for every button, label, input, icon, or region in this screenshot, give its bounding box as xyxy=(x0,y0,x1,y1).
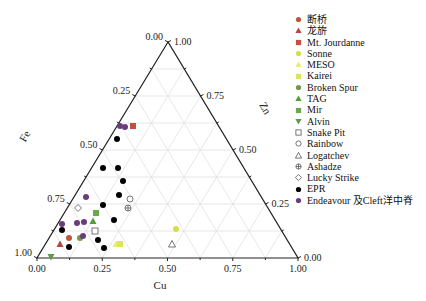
data-point xyxy=(114,136,120,142)
circle-marker-icon xyxy=(294,15,303,24)
legend-item: TAG xyxy=(294,93,413,104)
legend-item: Lucky Strike xyxy=(294,172,413,183)
legend-item: Mir xyxy=(294,104,413,115)
svg-text:0.25: 0.25 xyxy=(272,198,290,209)
data-point xyxy=(125,205,131,211)
data-point xyxy=(169,241,176,248)
data-point xyxy=(66,235,72,241)
triangle-down-marker-icon xyxy=(294,117,303,126)
data-point xyxy=(75,205,82,212)
square-marker-icon xyxy=(294,72,303,81)
data-point xyxy=(115,165,121,171)
data-point xyxy=(122,124,128,130)
data-point xyxy=(57,241,64,248)
circle-marker-icon xyxy=(294,185,303,194)
legend-label: Mt. Jourdanne xyxy=(307,37,365,48)
svg-text:0.50: 0.50 xyxy=(159,263,177,274)
data-point xyxy=(83,194,89,200)
open-triangle-marker-icon xyxy=(294,151,303,160)
svg-text:0.75: 0.75 xyxy=(224,263,242,274)
data-point xyxy=(92,228,98,234)
legend-label: Kairei xyxy=(307,70,332,81)
svg-text:0.75: 0.75 xyxy=(47,193,65,204)
data-point xyxy=(93,210,99,216)
caption-strip xyxy=(0,292,426,301)
data-point xyxy=(116,192,122,198)
data-point xyxy=(59,227,65,233)
legend-label: Ashadze xyxy=(307,161,341,172)
legend-item: Sonne xyxy=(294,48,413,59)
data-point xyxy=(95,237,101,243)
legend-item: 断桥 xyxy=(294,14,413,25)
legend-label: 断桥 xyxy=(307,14,327,25)
circle-marker-icon xyxy=(294,196,303,205)
svg-text:0.00: 0.00 xyxy=(146,31,164,42)
triangle-marker-icon xyxy=(294,26,303,35)
legend-label: Alvin xyxy=(307,116,330,127)
legend-label: 龙旂 xyxy=(307,25,327,36)
chart-grid xyxy=(53,69,281,258)
zn-axis-label: Zn xyxy=(257,100,274,117)
triangle-marker-icon xyxy=(294,94,303,103)
data-point xyxy=(117,123,123,129)
data-point xyxy=(100,202,106,208)
legend-item: MESO xyxy=(294,59,413,70)
open-square-marker-icon xyxy=(294,128,303,137)
legend-label: Endeavour 及Cleft洋中脊 xyxy=(307,195,413,206)
data-point xyxy=(100,165,106,171)
triangle-marker-icon xyxy=(294,60,303,69)
fe-axis-label: Fe xyxy=(17,128,33,144)
data-point xyxy=(111,217,117,223)
data-point xyxy=(81,219,87,225)
svg-text:0.50: 0.50 xyxy=(239,144,257,155)
data-point xyxy=(74,220,80,226)
data-point xyxy=(66,244,72,250)
legend-label: Sonne xyxy=(307,48,332,59)
crossed-circle-marker-icon xyxy=(294,162,303,171)
legend-label: TAG xyxy=(307,93,327,104)
legend-label: MESO xyxy=(307,59,335,70)
open-circle-marker-icon xyxy=(294,139,303,148)
legend-label: Broken Spur xyxy=(307,82,358,93)
legend-item: Snake Pit xyxy=(294,127,413,138)
legend-item: Ashadze xyxy=(294,161,413,172)
svg-text:0.25: 0.25 xyxy=(113,85,131,96)
data-point xyxy=(90,218,97,225)
svg-text:0.00: 0.00 xyxy=(304,252,322,263)
data-point xyxy=(59,221,65,227)
legend-item: Logatchev xyxy=(294,150,413,161)
legend-item: Rainbow xyxy=(294,138,413,149)
data-point xyxy=(173,226,179,232)
axis-ticks: 0.000.001.000.250.250.750.500.500.500.75… xyxy=(15,31,322,274)
svg-text:0.75: 0.75 xyxy=(207,90,225,101)
data-point xyxy=(101,245,107,251)
svg-text:0.25: 0.25 xyxy=(94,263,112,274)
circle-marker-icon xyxy=(294,49,303,58)
legend-label: Logatchev xyxy=(307,150,349,161)
legend-item: Mt. Jourdanne xyxy=(294,37,413,48)
legend-item: 龙旂 xyxy=(294,25,413,36)
svg-text:1.00: 1.00 xyxy=(15,247,33,258)
circle-marker-icon xyxy=(294,83,303,92)
legend-item: Kairei xyxy=(294,70,413,81)
svg-text:0.50: 0.50 xyxy=(80,139,98,150)
square-marker-icon xyxy=(294,106,303,115)
data-point xyxy=(127,196,133,202)
legend-item: EPR xyxy=(294,183,413,194)
square-marker-icon xyxy=(294,38,303,47)
legend-label: Mir xyxy=(307,104,322,115)
legend-label: Rainbow xyxy=(307,138,343,149)
svg-text:1.00: 1.00 xyxy=(174,36,192,47)
data-point xyxy=(117,241,123,247)
data-point xyxy=(130,123,136,129)
legend-label: Snake Pit xyxy=(307,127,345,138)
chart-legend: 断桥龙旂Mt. JourdanneSonneMESOKaireiBroken S… xyxy=(294,14,413,206)
cu-axis-label: Cu xyxy=(154,279,167,291)
legend-item: Broken Spur xyxy=(294,82,413,93)
svg-text:1.00: 1.00 xyxy=(289,263,307,274)
legend-label: Lucky Strike xyxy=(307,172,359,183)
legend-label: EPR xyxy=(307,183,325,194)
svg-text:0.00: 0.00 xyxy=(28,263,46,274)
data-point xyxy=(80,233,86,239)
legend-item: Endeavour 及Cleft洋中脊 xyxy=(294,195,413,206)
